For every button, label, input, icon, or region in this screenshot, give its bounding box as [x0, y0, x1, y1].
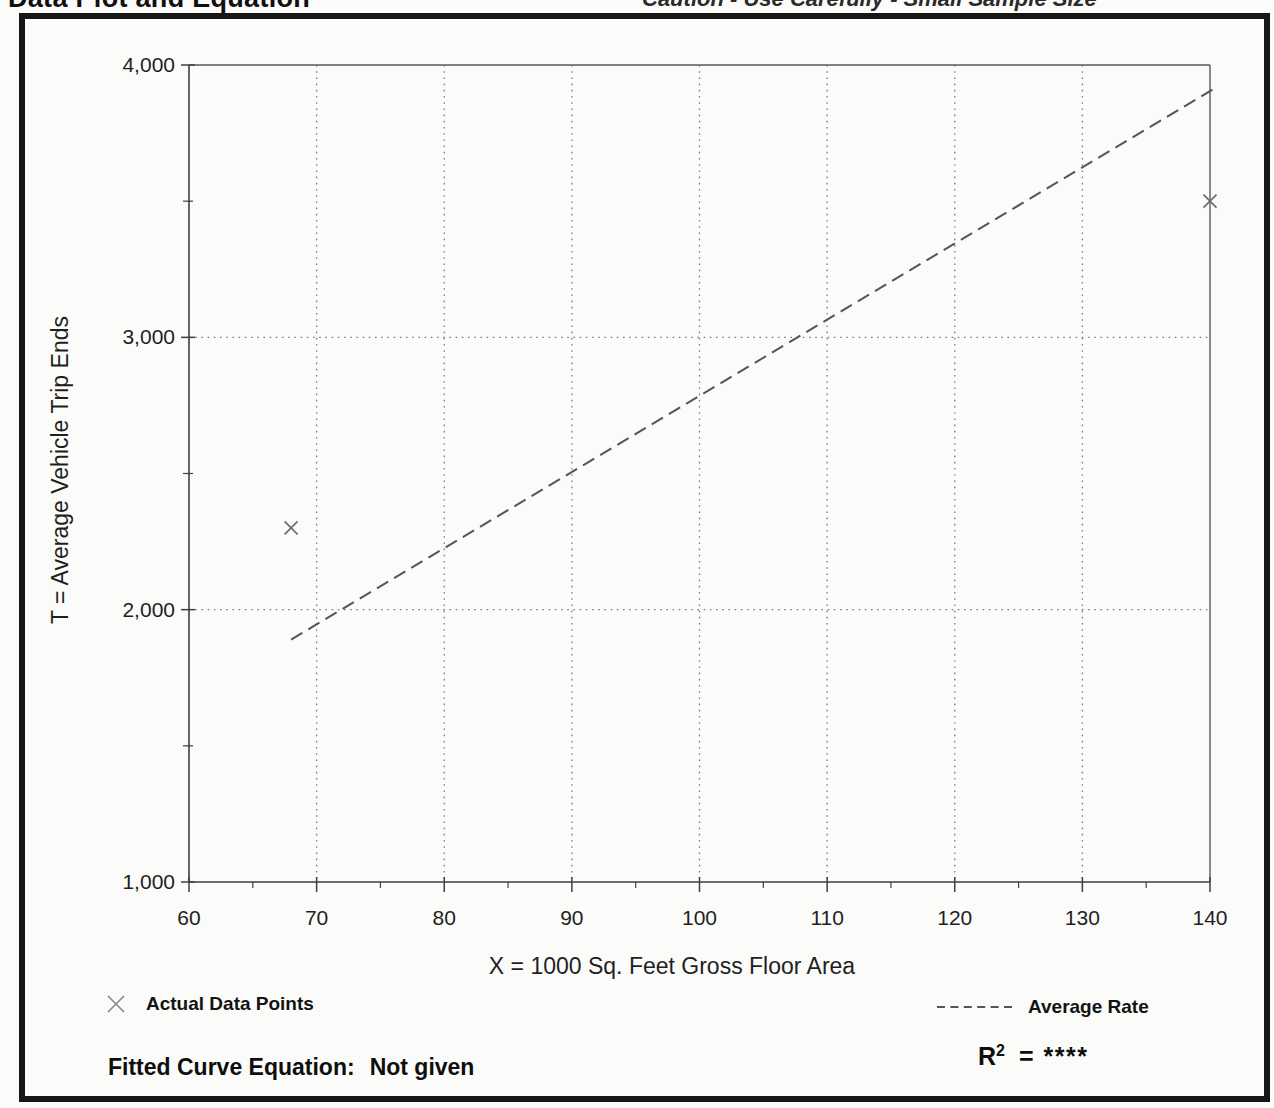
x-tick-label: 80 — [433, 906, 456, 929]
x-tick-label: 130 — [1065, 906, 1100, 929]
trip-generation-chart: 607080901001101201301404,0003,0002,0001,… — [0, 0, 1274, 1108]
fitted-curve-value: Not given — [370, 1054, 475, 1080]
x-tick-label: 110 — [810, 906, 843, 929]
y-tick-label: 2,000 — [122, 598, 175, 621]
x-tick-label: 120 — [937, 906, 972, 929]
y-axis-title: T = Average Vehicle Trip Ends — [47, 316, 73, 624]
r-squared-value: = **** — [1019, 1042, 1088, 1070]
x-tick-label: 90 — [560, 906, 583, 929]
r-squared-base: R — [978, 1042, 996, 1070]
legend-average-rate: Average Rate — [936, 996, 1149, 1018]
x-axis-title: X = 1000 Sq. Feet Gross Floor Area — [489, 953, 855, 979]
y-tick-label: 1,000 — [122, 870, 175, 893]
fitted-curve-equation: Fitted Curve Equation:Not given — [108, 1054, 474, 1081]
r-squared-sup: 2 — [996, 1042, 1005, 1059]
legend-data-points-label: Actual Data Points — [146, 993, 314, 1015]
average-rate-line — [291, 88, 1215, 639]
x-tick-label: 60 — [177, 906, 200, 929]
fitted-curve-label: Fitted Curve Equation: — [108, 1054, 355, 1080]
y-tick-label: 4,000 — [122, 53, 175, 76]
x-tick-label: 70 — [305, 906, 328, 929]
data-point-marker — [285, 521, 298, 534]
x-tick-label: 100 — [682, 906, 717, 929]
x-marker-icon — [104, 992, 128, 1016]
r-squared: R2 = **** — [978, 1042, 1088, 1071]
x-tick-label: 140 — [1192, 906, 1227, 929]
scanned-report-page: Data Plot and Equation Caution - Use Car… — [0, 0, 1274, 1108]
y-tick-label: 3,000 — [122, 325, 175, 348]
legend-actual-data-points: Actual Data Points — [104, 992, 314, 1016]
legend-average-rate-label: Average Rate — [1028, 996, 1149, 1018]
dashed-line-icon — [936, 1004, 1014, 1010]
